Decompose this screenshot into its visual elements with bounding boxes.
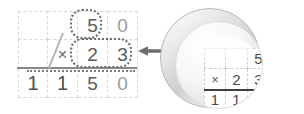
grid-cell-r1c3-digit-3: 3	[108, 40, 138, 69]
grid-cell-r2c2-digit-5: 5	[78, 69, 108, 98]
mag-cell-r2c2-digit-5: 5	[248, 90, 263, 109]
grid-cell-r0c2-digit-5: 5	[78, 11, 108, 40]
grid-cell-r2c1-digit-1: 1	[48, 69, 78, 98]
grid-cell-r0c0	[18, 11, 48, 40]
dotted-horizontal-guide	[27, 70, 135, 72]
magnified-rule-line	[204, 89, 263, 91]
grid-cell-r2c0-digit-1: 1	[18, 69, 48, 98]
mag-cell-r1c0-multiply-icon: ×	[204, 69, 226, 90]
multiplication-rule-line	[17, 67, 137, 69]
illustration-canvas: 5 0 × 2 3 1 1 5 0 5	[0, 0, 304, 114]
mag-cell-r0c2-digit-5: 5	[248, 48, 263, 69]
mag-cell-r1c2-digit-3: 3	[248, 69, 263, 90]
mag-cell-r0c0	[204, 48, 226, 69]
long-multiplication-grid: 5 0 × 2 3 1 1 5 0	[18, 11, 138, 98]
magnifier-rim: 5 × 2 3 1 1 5	[160, 8, 260, 108]
grid-cell-r1c2-digit-2: 2	[78, 40, 108, 69]
mag-cell-r2c0-digit-1: 1	[204, 90, 226, 109]
magnified-grid: 5 × 2 3 1 1 5	[204, 48, 263, 109]
grid-cell-r1c0	[18, 40, 48, 69]
grid-cell-r2c3-digit-0: 0	[108, 69, 138, 98]
mag-cell-r0c1	[226, 48, 248, 69]
grid-cell-r0c3-digit-0: 0	[108, 11, 138, 40]
mag-cell-r2c1-digit-1: 1	[226, 90, 248, 109]
magnifying-glass: 5 × 2 3 1 1 5	[152, 2, 304, 114]
magnifier-lens: 5 × 2 3 1 1 5	[175, 21, 263, 109]
mag-cell-r1c1-digit-2: 2	[226, 69, 248, 90]
